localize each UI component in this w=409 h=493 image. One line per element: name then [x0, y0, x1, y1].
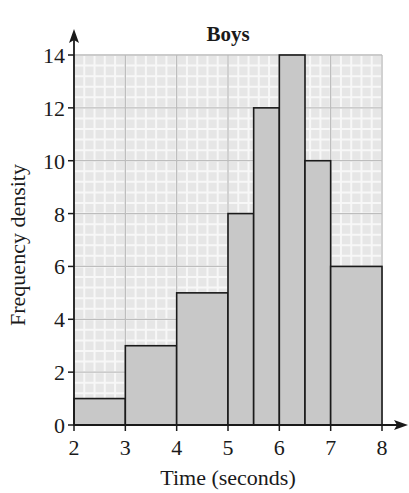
x-tick-label: 8	[377, 435, 388, 460]
y-tick-label: 10	[43, 149, 65, 174]
y-tick-label: 6	[54, 254, 65, 279]
y-axis-ticks: 02468101214	[43, 43, 74, 438]
histogram-bar	[74, 399, 125, 425]
y-axis-label: Frequency density	[5, 164, 30, 326]
histogram-bar	[331, 266, 382, 425]
y-tick-label: 14	[43, 43, 65, 68]
chart-title: Boys	[206, 22, 249, 46]
y-tick-label: 12	[43, 96, 65, 121]
y-tick-label: 0	[54, 413, 65, 438]
x-tick-label: 3	[120, 435, 131, 460]
y-tick-label: 2	[54, 360, 65, 385]
x-axis-ticks: 2345678	[69, 425, 388, 460]
histogram-bar	[228, 214, 254, 425]
y-tick-label: 8	[54, 202, 65, 227]
x-tick-label: 2	[69, 435, 80, 460]
x-tick-label: 4	[171, 435, 182, 460]
x-tick-label: 7	[325, 435, 336, 460]
histogram-bar	[254, 108, 280, 425]
y-tick-label: 4	[54, 307, 65, 332]
histogram-chart: 02468101214 2345678 Boys Time (seconds) …	[0, 0, 409, 493]
histogram-bar	[177, 293, 228, 425]
histogram-bar	[279, 55, 305, 425]
histogram-bar	[305, 161, 331, 425]
x-tick-label: 5	[223, 435, 234, 460]
x-tick-label: 6	[274, 435, 285, 460]
x-axis-label: Time (seconds)	[160, 465, 295, 490]
histogram-bar	[125, 346, 176, 425]
